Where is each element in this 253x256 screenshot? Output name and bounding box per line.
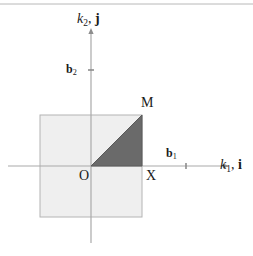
point-label-X: X bbox=[146, 169, 156, 183]
b2-label-b: b bbox=[66, 62, 73, 76]
horizontal-axis-label-comma: , bbox=[231, 157, 238, 172]
b2-label-subscript: 2 bbox=[73, 68, 77, 77]
b1-label-subscript: 1 bbox=[173, 152, 177, 161]
diagram-canvas bbox=[0, 0, 253, 256]
b2-label: b2 bbox=[66, 63, 77, 78]
vertical-axis-label-comma: , bbox=[88, 11, 95, 26]
vertical-axis-label-j: j bbox=[95, 11, 100, 26]
geometry-figure: k2, j b2 k1, i b1 O X M bbox=[0, 0, 253, 256]
point-label-origin: O bbox=[79, 169, 89, 183]
horizontal-axis-label-i: i bbox=[238, 157, 242, 172]
b1-label-b: b bbox=[166, 146, 173, 160]
vertical-axis-label: k2, j bbox=[77, 12, 100, 28]
b1-label: b1 bbox=[166, 147, 177, 162]
horizontal-axis-label: k1, i bbox=[220, 158, 242, 174]
point-label-M: M bbox=[141, 96, 153, 110]
vertical-axis-arrowhead bbox=[88, 28, 93, 34]
